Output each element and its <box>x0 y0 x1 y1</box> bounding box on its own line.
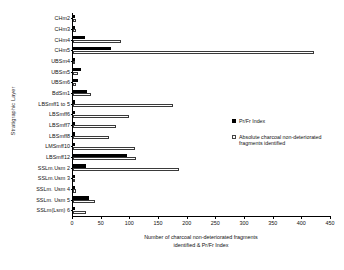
y-axis-tick-label: SSLm. Usm 5 <box>36 197 70 203</box>
x-axis-ticks: 050100150200250300350400450 <box>72 216 330 232</box>
bar-absolute-charcoal <box>73 29 76 32</box>
y-axis-tick-label: UBSm4 <box>51 58 70 64</box>
y-axis-tick-label: LBSmff7 <box>49 122 70 128</box>
x-axis-tick-label: 100 <box>125 220 134 226</box>
bar-group <box>73 194 330 205</box>
chart-row: SSLm.Usm 2 <box>73 162 330 173</box>
bar-absolute-charcoal <box>73 125 116 128</box>
bar-absolute-charcoal <box>73 93 91 96</box>
bar-absolute-charcoal <box>73 179 75 182</box>
chart-row: SSLm(Lsm) 6 <box>73 205 330 216</box>
bar-absolute-charcoal <box>73 19 76 22</box>
bar-group <box>73 88 330 99</box>
bar-absolute-charcoal <box>73 61 75 64</box>
x-axis-tick-label: 250 <box>211 220 220 226</box>
bar-absolute-charcoal <box>73 83 76 86</box>
bar-group <box>73 173 330 184</box>
chart-row: LBSmff1 to 5 <box>73 98 330 109</box>
bar-absolute-charcoal <box>73 147 135 150</box>
x-axis-tick-label: 350 <box>268 220 277 226</box>
chart-row: UBSm4 <box>73 56 330 67</box>
chart-row: CHm2 <box>73 13 330 24</box>
bar-absolute-charcoal <box>73 104 173 107</box>
x-axis-tick-label: 200 <box>182 220 191 226</box>
x-axis-tick-label: 400 <box>297 220 306 226</box>
y-axis-tick-label: CHm2 <box>55 15 70 21</box>
chart-container: Stratigraphic Layer CHm2CHm3CHm4CHm5UBSm… <box>0 0 344 270</box>
plot-area: CHm2CHm3CHm4CHm5UBSm4UBSm5UBSm6BdSm1LBSm… <box>72 13 330 216</box>
x-axis-tick-label: 50 <box>98 220 104 226</box>
x-axis-tick <box>101 216 102 219</box>
x-axis-tick <box>158 216 159 219</box>
y-axis-tick-label: SSLm.Usm 3 <box>38 175 70 181</box>
chart-row: SSLm. Usm 4 <box>73 184 330 195</box>
x-axis-tick <box>187 216 188 219</box>
y-axis-tick-label: LBSmff8 <box>49 133 70 139</box>
bar-absolute-charcoal <box>73 115 129 118</box>
y-axis-tick-label: CHm5 <box>55 47 70 53</box>
legend-swatch-filled-square-icon <box>232 119 236 123</box>
y-axis-tick-label: LBSmff12 <box>46 154 70 160</box>
bar-group <box>73 34 330 45</box>
x-axis-tick-label: 450 <box>326 220 335 226</box>
bar-group <box>73 24 330 35</box>
y-axis-tick-label: LBSmff1 to 5 <box>38 101 70 107</box>
chart-row: CHm5 <box>73 45 330 56</box>
category-rows: CHm2CHm3CHm4CHm5UBSm4UBSm5UBSm6BdSm1LBSm… <box>73 13 330 216</box>
legend-label: Pr/Fr Index <box>239 118 265 125</box>
x-axis-title-line-1: Number of charcoal non-deteriorated frag… <box>72 234 330 242</box>
x-axis-tick-label: 150 <box>154 220 163 226</box>
y-axis-title: Stratigraphic Layer <box>10 51 16 171</box>
y-axis-tick-label: SSLm(Lsm) 6 <box>37 207 71 213</box>
y-axis-tick-label: CHm3 <box>55 26 70 32</box>
chart-row: CHm4 <box>73 34 330 45</box>
chart-row: UBSm6 <box>73 77 330 88</box>
legend-item-absolute-charcoal: Absolute charcoal non-deteriorated fragm… <box>232 134 338 147</box>
y-axis-tick-label: LMSmff10 <box>45 143 70 149</box>
chart-row: SSLm.Usm 3 <box>73 173 330 184</box>
bar-group <box>73 66 330 77</box>
y-axis-tick-label: UBSm5 <box>51 69 70 75</box>
y-axis-tick-label: BdSm1 <box>52 90 70 96</box>
y-axis-tick-label: UBSm6 <box>51 79 70 85</box>
bar-group <box>73 205 330 216</box>
x-axis-tick <box>273 216 274 219</box>
bar-absolute-charcoal <box>73 72 78 75</box>
x-axis-tick-label: 0 <box>71 220 74 226</box>
bar-absolute-charcoal <box>73 200 95 203</box>
x-axis-tick <box>215 216 216 219</box>
chart-row: CHm3 <box>73 24 330 35</box>
bar-group <box>73 45 330 56</box>
y-axis-tick-label: CHm4 <box>55 37 70 43</box>
x-axis-title: Number of charcoal non-deteriorated frag… <box>72 234 330 249</box>
bar-absolute-charcoal <box>73 189 76 192</box>
bar-absolute-charcoal <box>73 40 121 43</box>
bar-absolute-charcoal <box>73 136 109 139</box>
bar-group <box>73 13 330 24</box>
x-axis-tick <box>72 216 73 219</box>
x-axis-tick <box>129 216 130 219</box>
bar-group <box>73 184 330 195</box>
y-axis-tick-label: LBSmff6 <box>49 111 70 117</box>
chart-row: UBSm5 <box>73 66 330 77</box>
y-axis-tick-label: SSLm.Usm 2 <box>38 165 70 171</box>
bar-group <box>73 56 330 67</box>
bar-absolute-charcoal <box>73 51 314 54</box>
chart-row: SSLm. Usm 5 <box>73 194 330 205</box>
x-axis-tick-label: 300 <box>240 220 249 226</box>
bar-absolute-charcoal <box>73 211 86 214</box>
legend-item-prfr-index: Pr/Fr Index <box>232 118 338 125</box>
bar-group <box>73 98 330 109</box>
x-axis-tick <box>301 216 302 219</box>
bar-absolute-charcoal <box>73 157 136 160</box>
bar-absolute-charcoal <box>73 168 179 171</box>
bar-group <box>73 77 330 88</box>
x-axis-title-line-2: identified & Pr/Fr Index <box>72 242 330 250</box>
bar-group <box>73 162 330 173</box>
y-axis-tick-label: SSLm. Usm 4 <box>36 186 70 192</box>
x-axis-tick <box>244 216 245 219</box>
legend-swatch-open-square-icon <box>232 135 236 139</box>
x-axis-tick <box>330 216 331 219</box>
chart-legend: Pr/Fr Index Absolute charcoal non-deteri… <box>232 118 338 156</box>
chart-row: BdSm1 <box>73 88 330 99</box>
